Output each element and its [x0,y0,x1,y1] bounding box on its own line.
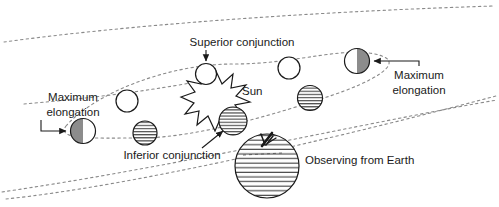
superior-conjunction-label: Superior conjunction [190,36,295,48]
planet-max-elongation-left [71,119,96,144]
maximum-elongation-left-leader [41,120,66,131]
inferior-conjunction-leader [202,131,223,148]
planet-superior-conjunction [196,64,217,85]
maximum-elongation-left-label-line2: elongation [46,106,99,118]
diagram-canvas: Sun [0,0,499,207]
maximum-elongation-left-label-line1: Maximum [48,91,98,103]
maximum-elongation-right-label-line2: elongation [392,84,445,96]
sun-label: Sun [242,85,262,97]
earth [235,133,299,198]
planet-inferior-conjunction [219,107,247,135]
maximum-elongation-right-leader [374,61,419,66]
planet-upper-left [116,90,138,112]
planet-lower-left [133,121,157,145]
astronomy-orbit-diagram: Sun [0,0,499,207]
observing-from-earth-annotation: Observing from Earth [305,154,414,166]
planet-max-elongation-right [345,49,370,74]
observing-from-earth-label: Observing from Earth [305,154,414,166]
inferior-conjunction-label: Inferior conjunction [123,149,220,161]
maximum-elongation-right-annotation: Maximum elongation [374,61,446,96]
planet-lower-right [298,86,323,111]
superior-conjunction-annotation: Superior conjunction [190,36,295,61]
planet-upper-right [278,57,300,79]
maximum-elongation-right-label-line1: Maximum [394,69,444,81]
